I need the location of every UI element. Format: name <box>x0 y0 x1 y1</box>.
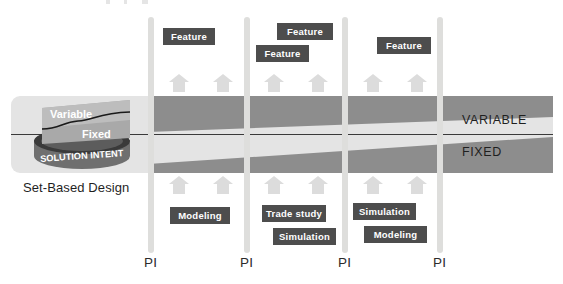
arrow-up-icon <box>307 176 329 194</box>
activity-chip-simulation-1[interactable]: Simulation <box>273 228 336 245</box>
diagram-canvas: VARIABLE FIXED SOLUTION INTENT Variable … <box>0 0 563 284</box>
intent-lower-label: Fixed <box>82 128 111 140</box>
activity-chip-modeling-1[interactable]: Modeling <box>170 207 230 224</box>
pi-bar-2[interactable] <box>244 17 250 253</box>
feature-chip-4[interactable]: Feature <box>377 37 431 54</box>
top-edge-artifact <box>106 0 110 4</box>
activity-chip-trade-study[interactable]: Trade study <box>262 205 326 222</box>
arrow-up-icon <box>263 74 285 92</box>
pi-label-4: PI <box>433 255 446 270</box>
arrow-up-icon <box>406 176 428 194</box>
arrow-up-icon <box>263 176 285 194</box>
set-based-design-caption: Set-Based Design <box>23 180 129 195</box>
arrow-up-icon <box>362 176 384 194</box>
feature-chip-1[interactable]: Feature <box>163 28 215 45</box>
top-edge-artifact <box>142 0 148 4</box>
arrow-up-icon <box>168 74 190 92</box>
pi-label-1: PI <box>144 255 157 270</box>
arrow-up-icon <box>168 176 190 194</box>
activity-chip-simulation-2[interactable]: Simulation <box>353 203 416 220</box>
feature-chip-2[interactable]: Feature <box>277 23 333 40</box>
arrow-up-icon <box>307 74 329 92</box>
feature-chip-3[interactable]: Feature <box>256 45 309 62</box>
pi-label-2: PI <box>240 255 253 270</box>
arrow-up-icon <box>406 74 428 92</box>
band-label-variable: VARIABLE <box>462 113 527 127</box>
solution-intent-cylinder: SOLUTION INTENT Variable Fixed <box>26 96 144 174</box>
arrow-up-icon <box>212 74 234 92</box>
activity-chip-modeling-2[interactable]: Modeling <box>364 226 427 243</box>
intent-upper-label: Variable <box>50 108 92 120</box>
top-edge-artifact <box>124 0 127 4</box>
arrow-up-icon <box>362 74 384 92</box>
pi-bar-1[interactable] <box>148 17 154 253</box>
pi-bar-4[interactable] <box>437 17 443 253</box>
pi-bar-3[interactable] <box>342 17 348 253</box>
band-label-fixed: FIXED <box>462 145 502 159</box>
pi-label-3: PI <box>338 255 351 270</box>
arrow-up-icon <box>212 176 234 194</box>
